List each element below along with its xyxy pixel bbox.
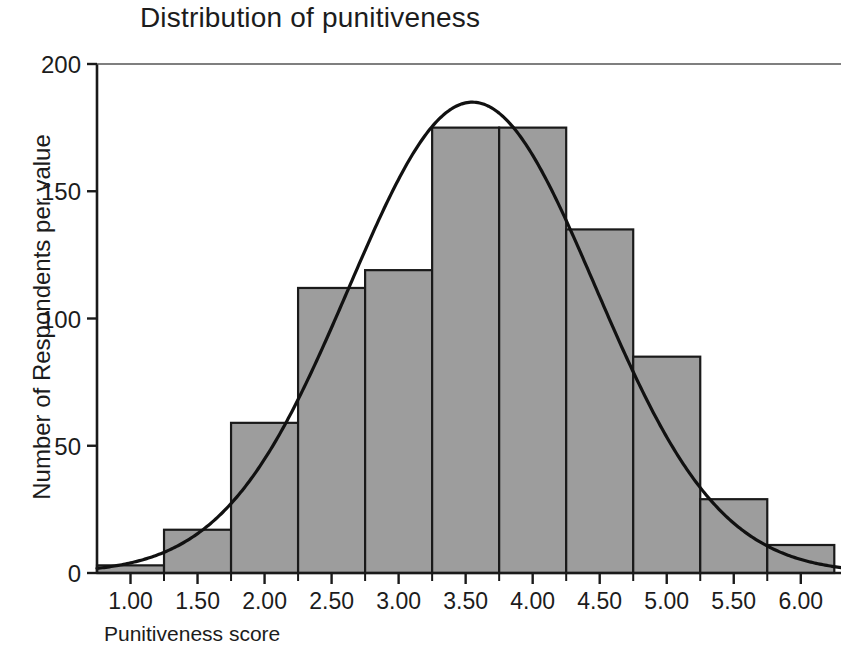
histogram-bar bbox=[700, 499, 767, 573]
x-tick-label: 1.50 bbox=[175, 588, 220, 614]
x-tick-label: 2.50 bbox=[309, 588, 354, 614]
x-tick-label: 2.00 bbox=[242, 588, 287, 614]
x-tick-label: 6.00 bbox=[778, 588, 823, 614]
histogram-bar bbox=[432, 128, 499, 573]
x-tick-label: 4.50 bbox=[577, 588, 622, 614]
histogram-bar bbox=[365, 270, 432, 573]
y-tick-label: 100 bbox=[41, 306, 81, 333]
histogram-bar bbox=[633, 357, 700, 573]
histogram-bars bbox=[97, 128, 834, 573]
x-tick-label: 4.00 bbox=[510, 588, 555, 614]
histogram-bar bbox=[499, 128, 566, 573]
plot-area: 050100150200 1.001.502.002.503.003.504.0… bbox=[0, 0, 841, 662]
x-tick-label: 3.50 bbox=[443, 588, 488, 614]
histogram-bar bbox=[566, 229, 633, 573]
y-tick-label: 0 bbox=[68, 560, 81, 587]
histogram-bar bbox=[231, 423, 298, 573]
x-tick-label: 5.00 bbox=[644, 588, 689, 614]
x-tick-label: 3.00 bbox=[376, 588, 421, 614]
y-tick-label: 150 bbox=[41, 178, 81, 205]
x-tick-label: 1.00 bbox=[108, 588, 153, 614]
histogram-bar bbox=[164, 530, 231, 573]
y-axis-ticks: 050100150200 bbox=[41, 51, 97, 587]
y-tick-label: 50 bbox=[54, 433, 81, 460]
x-axis-ticks: 1.001.502.002.503.003.504.004.505.005.50… bbox=[108, 573, 823, 614]
y-tick-label: 200 bbox=[41, 51, 81, 78]
chart-figure: Distribution of punitiveness Number of R… bbox=[0, 0, 841, 662]
x-tick-label: 5.50 bbox=[711, 588, 756, 614]
